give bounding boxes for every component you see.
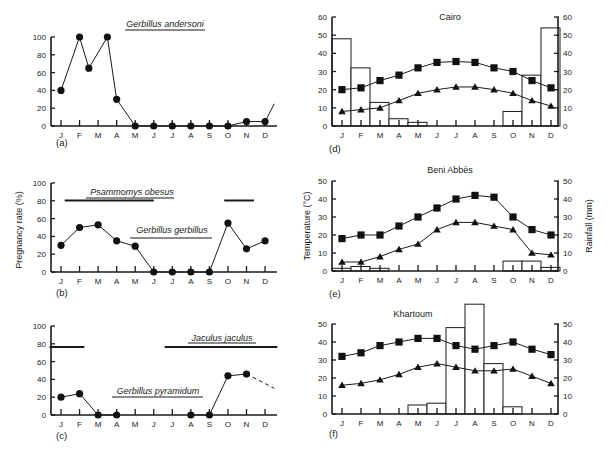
data-point-square bbox=[490, 342, 497, 349]
y-tick-label-right: 50 bbox=[563, 177, 572, 186]
x-tick-label: M bbox=[132, 131, 139, 140]
y-tick-label: 100 bbox=[33, 33, 47, 42]
data-point-square bbox=[395, 72, 402, 79]
data-point-triangle bbox=[376, 253, 384, 259]
y-tick-label: 40 bbox=[37, 86, 46, 95]
x-tick-label: D bbox=[548, 419, 554, 428]
panel-label: (c) bbox=[56, 430, 67, 441]
data-point-square bbox=[414, 213, 421, 220]
data-point-triangle bbox=[547, 380, 555, 386]
data-point-triangle bbox=[528, 373, 536, 379]
x-tick-label: A bbox=[472, 131, 478, 140]
chart-panel-e: 0102030405001020304050JFMAMJJASOND(e)Ben… bbox=[302, 165, 594, 299]
data-point bbox=[85, 65, 92, 72]
data-point bbox=[261, 118, 268, 125]
y-tick-label: 60 bbox=[37, 69, 46, 78]
x-tick-label: M bbox=[132, 420, 139, 429]
y-tick-label: 40 bbox=[318, 49, 327, 58]
data-point-square bbox=[471, 192, 478, 199]
chart-title: Khartoum bbox=[393, 309, 432, 319]
chart-panel-f: 0102030405001020304050JFMAMJJASOND(f)Kha… bbox=[318, 304, 572, 439]
x-tick-label: J bbox=[59, 420, 63, 429]
x-tick-label: O bbox=[510, 419, 516, 428]
data-point bbox=[206, 268, 213, 275]
series-tail-line bbox=[247, 374, 275, 388]
rainfall-bar bbox=[446, 328, 465, 414]
chart-panel-d: 01020304050600102030405060JFMAMJJASOND(d… bbox=[318, 12, 572, 154]
x-tick-label: M bbox=[377, 276, 384, 285]
y-tick-label-right: 50 bbox=[563, 320, 572, 329]
data-point-square bbox=[528, 77, 535, 84]
y-tick-label: 40 bbox=[318, 195, 327, 204]
x-tick-label: D bbox=[262, 131, 268, 140]
data-point-square bbox=[452, 58, 459, 65]
x-tick-label: J bbox=[454, 419, 458, 428]
x-tick-label: D bbox=[548, 131, 554, 140]
data-point bbox=[224, 219, 231, 226]
x-tick-label: F bbox=[359, 419, 364, 428]
x-tick-label: J bbox=[152, 131, 156, 140]
y-tick-label: 50 bbox=[318, 31, 327, 40]
x-tick-label: A bbox=[114, 420, 120, 429]
rainfall-bar bbox=[541, 28, 560, 126]
x-tick-label: M bbox=[415, 419, 422, 428]
data-point bbox=[132, 243, 139, 250]
chart-panel-c: 020406080100JFMAMJJASOND(c)Jaculus jacul… bbox=[33, 322, 278, 441]
data-point-square bbox=[509, 338, 516, 345]
species-label: Psammomys obesus bbox=[90, 187, 174, 197]
figure: 020406080100JFMAMJJASOND(a)Gerbillus and… bbox=[0, 0, 610, 457]
x-tick-label: J bbox=[435, 419, 439, 428]
y-tick-label: 10 bbox=[318, 104, 327, 113]
data-point-square bbox=[433, 59, 440, 66]
y-tick-label-right: 50 bbox=[563, 31, 572, 40]
x-tick-label: M bbox=[95, 277, 102, 286]
x-tick-label: D bbox=[262, 420, 268, 429]
data-point-triangle bbox=[433, 226, 441, 232]
species-label: Gerbillus andersoni bbox=[126, 19, 205, 29]
data-point-square bbox=[338, 235, 345, 242]
data-point bbox=[76, 33, 83, 40]
y-tick-label: 20 bbox=[37, 393, 46, 402]
x-tick-label: S bbox=[491, 131, 496, 140]
y-tick-label-right: 10 bbox=[563, 249, 572, 258]
data-point-square bbox=[395, 338, 402, 345]
data-point-square bbox=[547, 84, 554, 91]
chart-panel-b: 020406080100JFMAMJJASOND(b)Psammomys obe… bbox=[14, 179, 277, 298]
x-tick-label: N bbox=[244, 277, 250, 286]
y-tick-label: 30 bbox=[318, 68, 327, 77]
y-tick-label: 40 bbox=[37, 232, 46, 241]
data-point-square bbox=[414, 64, 421, 71]
y-tick-label: 40 bbox=[318, 338, 327, 347]
data-point bbox=[76, 224, 83, 231]
chart-title: Beni Abbès bbox=[427, 165, 473, 175]
data-point bbox=[261, 237, 268, 244]
y-tick-label: 0 bbox=[42, 411, 47, 420]
data-point-square bbox=[357, 84, 364, 91]
data-point bbox=[104, 33, 111, 40]
species-label: Jaculus jaculus bbox=[190, 333, 253, 343]
y-axis-title-right: Rainfall (mm) bbox=[584, 199, 594, 253]
y-axis-title-left: Temperature (°C) bbox=[302, 191, 312, 260]
x-tick-label: D bbox=[548, 276, 554, 285]
y-tick-label-right: 10 bbox=[563, 392, 572, 401]
y-tick-label: 0 bbox=[42, 122, 47, 131]
x-tick-label: A bbox=[188, 131, 194, 140]
y-tick-label: 0 bbox=[323, 122, 328, 131]
data-point bbox=[169, 122, 176, 129]
data-point bbox=[57, 394, 64, 401]
chart-title: Cairo bbox=[439, 12, 461, 22]
x-tick-label: J bbox=[170, 131, 174, 140]
y-tick-label-right: 0 bbox=[563, 267, 568, 276]
data-point-square bbox=[395, 222, 402, 229]
y-tick-label: 20 bbox=[37, 104, 46, 113]
data-point-square bbox=[490, 64, 497, 71]
x-tick-label: M bbox=[377, 419, 384, 428]
rainfall-bar bbox=[351, 68, 370, 126]
x-tick-label: M bbox=[415, 276, 422, 285]
y-tick-label-right: 0 bbox=[563, 122, 568, 131]
x-tick-label: S bbox=[491, 419, 496, 428]
x-tick-label: A bbox=[396, 276, 402, 285]
y-tick-label: 60 bbox=[318, 13, 327, 22]
data-point-square bbox=[338, 86, 345, 93]
y-tick-label: 80 bbox=[37, 197, 46, 206]
